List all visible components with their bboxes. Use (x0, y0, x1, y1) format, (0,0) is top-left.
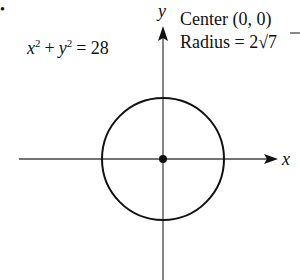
y-axis-label: y (156, 1, 166, 21)
equation-plus: + (45, 38, 55, 58)
equation-y-exponent: 2 (67, 37, 73, 49)
equation-x-exponent: 2 (35, 37, 41, 49)
svg-text:x2+y2= 28: x2+y2= 28 (26, 37, 109, 58)
equation-label: x2+y2= 28 (26, 37, 109, 58)
center-point (159, 155, 167, 163)
x-axis-label: x (281, 149, 290, 169)
x-axis: x (19, 149, 290, 169)
equation-rhs: = 28 (76, 38, 109, 58)
svg-text:Radius = 2√7: Radius = 2√7 (180, 32, 277, 52)
y-axis: y (156, 1, 168, 280)
radius-text: Radius = 2 (180, 32, 258, 52)
radius-radicand: 7 (268, 32, 277, 52)
sqrt-symbol-icon: √ (258, 32, 268, 52)
circle-diagram: • x2+y2= 28 x y Center (0, 0) Radius = 2… (0, 0, 300, 280)
center-text: Center (0, 0) (180, 9, 271, 30)
equation-y: y (57, 38, 67, 58)
center-radius-annotation: Center (0, 0) Radius = 2√7 (180, 9, 300, 52)
equation-x: x (26, 38, 35, 58)
bullet-marker: • (0, 2, 5, 17)
